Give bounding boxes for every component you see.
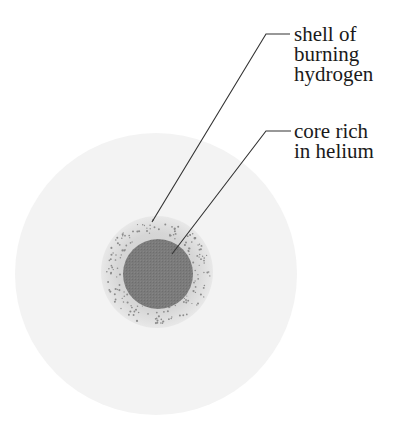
shell-label: shell of burning hydrogen [294,24,373,84]
core-label-line-2: in helium [294,141,374,161]
helium-core [123,239,193,309]
core-label-line-1: core rich [294,121,374,141]
core-label: core rich in helium [294,121,374,161]
shell-label-line-1: shell of [294,24,373,44]
shell-label-line-2: burning [294,44,373,64]
shell-label-line-3: hydrogen [294,64,373,84]
